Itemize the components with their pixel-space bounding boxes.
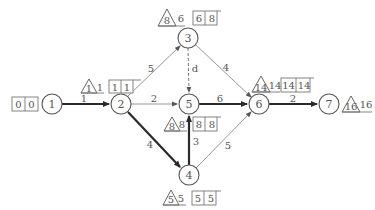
edge-label-4-6: 5 [225,140,231,151]
node-2-label: 2 [118,98,125,111]
time-triangle-side: 16 [360,99,373,110]
time-tag-node-2: 1 1 1 1 [81,79,141,94]
time-tag-node-1: 0 0 [12,97,38,111]
nodes: 1 2 3 4 5 6 7 [42,28,339,185]
node-7-label: 7 [326,98,333,111]
node-6-label: 6 [256,98,263,111]
edge-label-6-7: 2 [290,93,296,104]
time-triangle-side: 6 [178,13,184,24]
time-triangle-side: 5 [178,193,184,204]
node-1-label: 1 [49,98,56,111]
node-4-label: 4 [186,169,193,182]
time-box-a: 5 [195,193,201,204]
node-2: 2 [111,94,131,114]
node-3: 3 [178,28,198,48]
time-tag-node-6: 14 14 14 14 [252,76,314,93]
time-tag-node-7: 16 16 [342,96,372,112]
time-triangle-side: 1 [97,82,103,93]
edge-label-2-5: 2 [151,93,157,104]
time-box-a: 1 [112,82,118,93]
time-box-ef: 0 [28,99,34,110]
edge-label-4-5: 3 [193,136,199,147]
time-box-es: 0 [15,99,21,110]
time-triangle-value: 5 [168,194,174,205]
time-triangle-value: 8 [169,121,175,132]
edge-label-3-6: 4 [223,62,229,73]
edge-3-5-dummy [188,48,189,92]
time-triangle-value: 1 [86,83,92,94]
time-box-a: 14 [282,80,295,91]
node-5-label: 5 [186,98,193,111]
node-1: 1 [42,94,62,114]
time-triangle-value: 16 [345,101,358,112]
edge-label-5-6: 6 [217,93,223,104]
edge-label-2-3: 5 [148,63,154,74]
node-6: 6 [249,94,269,114]
time-tag-node-4: 5 5 5 5 [163,190,221,205]
time-box-a: 8 [196,119,202,130]
time-tag-node-5: 8 8 8 8 [164,117,221,132]
edge-label-3-5: d [192,63,199,74]
edge-label-1-2: 1 [81,93,87,104]
node-7: 7 [319,94,339,114]
time-triangle-side: 14 [269,80,282,91]
time-box-b: 8 [209,119,215,130]
node-5: 5 [179,94,199,114]
node-3-label: 3 [185,32,192,45]
time-box-b: 5 [208,193,214,204]
time-triangle-value: 14 [255,82,268,93]
time-box-b: 1 [124,82,130,93]
network-diagram: 1 5 2 4 d 4 3 5 6 2 1 [0,0,375,210]
time-tag-node-3: 8 6 6 8 [158,9,221,26]
edge-label-2-4: 4 [147,139,153,150]
time-triangle-value: 8 [164,15,170,26]
node-4: 4 [179,165,199,185]
time-box-a: 6 [196,13,202,24]
time-box-b: 8 [209,13,215,24]
time-triangle-side: 8 [179,119,185,130]
time-box-b: 14 [298,80,311,91]
